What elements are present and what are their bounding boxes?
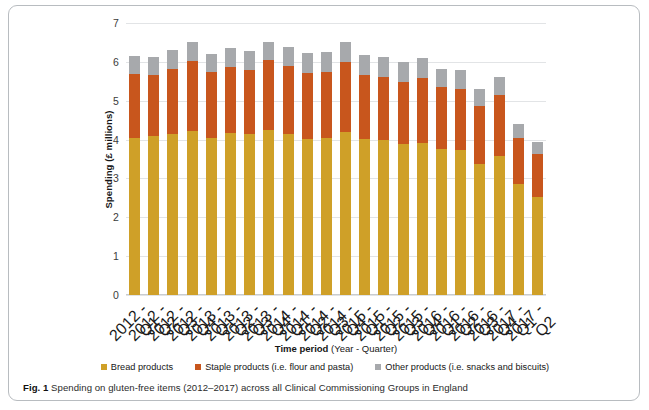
bar-segment-other [148,57,159,75]
bar-segment-bread [148,136,159,295]
y-axis-tick-label: 1 [113,250,119,262]
bar-segment-bread [244,134,255,295]
bar-column[interactable] [206,23,217,295]
bar-column[interactable] [398,23,409,295]
figure-frame: Spending (£ millions) 01234567 2012 - Q1… [8,5,640,401]
bar-segment-other [532,142,543,154]
bar-segment-staple [436,87,447,149]
bar-column[interactable] [225,23,236,295]
bar-column[interactable] [187,23,198,295]
bar-segment-staple [283,66,294,134]
y-axis-title-bold: Spending [103,164,114,208]
chart-legend: Bread productsStaple products (i.e. flou… [9,362,641,372]
bar-column[interactable] [359,23,370,295]
bar-segment-staple [398,82,409,144]
bar-segment-bread [417,143,428,295]
bar-segment-other [359,55,370,75]
bar-segment-staple [225,67,236,133]
bar-column[interactable] [129,23,140,295]
bar-segment-other [398,62,409,82]
bar-segment-bread [340,132,351,295]
bar-segment-staple [474,106,485,164]
bar-segment-other [455,70,466,89]
bar-segment-other [417,58,428,78]
bar-segment-bread [321,138,332,295]
x-axis-tick-labels: 2012 - Q12012 - Q22012 - Q32012 - Q42013… [126,297,546,341]
bar-column[interactable] [167,23,178,295]
bar-segment-bread [378,140,389,295]
legend-swatch-icon [101,364,107,370]
bar-segment-bread [474,164,485,295]
plot-area: 01234567 [126,23,546,295]
bar-segment-bread [494,156,505,295]
bar-segment-staple [263,60,274,130]
bar-segment-bread [302,139,313,295]
bar-column[interactable] [532,23,543,295]
bar-segment-bread [187,131,198,295]
bar-segment-other [225,48,236,66]
legend-swatch-icon [375,364,381,370]
bar-column[interactable] [302,23,313,295]
gridline [126,295,546,296]
bar-segment-staple [513,138,524,184]
y-axis-title-rest: (£ millions) [103,110,114,164]
legend-item[interactable]: Staple products (i.e. flour and pasta) [195,362,353,372]
bar-segment-other [474,89,485,106]
y-axis-tick-label: 3 [113,172,119,184]
chart-area: Spending (£ millions) 01234567 2012 - Q1… [9,6,641,378]
bar-segment-other [283,47,294,66]
y-axis-tick-label: 0 [113,289,119,301]
bar-segment-staple [340,62,351,132]
bar-segment-other [244,51,255,70]
bar-segment-bread [455,150,466,295]
bar-segment-staple [417,78,428,143]
bar-segment-staple [455,89,466,150]
bar-segment-bread [513,184,524,295]
bar-segment-other [436,69,447,88]
bar-segment-bread [225,133,236,295]
bar-column[interactable] [321,23,332,295]
bar-segment-other [187,42,198,61]
bar-segment-other [263,42,274,60]
bar-column[interactable] [378,23,389,295]
bar-column[interactable] [263,23,274,295]
legend-label: Staple products (i.e. flour and pasta) [205,362,353,372]
bar-segment-other [302,53,313,72]
bar-column[interactable] [455,23,466,295]
bar-column[interactable] [340,23,351,295]
bar-segment-other [513,124,524,139]
y-axis-tick-label: 6 [113,56,119,68]
bar-segment-staple [532,154,543,198]
bar-segment-other [167,50,178,69]
bar-segment-other [494,77,505,95]
bar-segment-bread [263,130,274,295]
bar-segment-staple [378,77,389,139]
bar-column[interactable] [513,23,524,295]
bar-segment-staple [302,73,313,139]
bar-segment-bread [206,138,217,295]
bar-segment-staple [148,75,159,135]
figure-caption: Fig. 1 Spending on gluten-free items (20… [23,382,629,393]
y-axis-tick-label: 4 [113,134,119,146]
legend-label: Other products (i.e. snacks and biscuits… [385,362,549,372]
bar-column[interactable] [283,23,294,295]
legend-item[interactable]: Other products (i.e. snacks and biscuits… [375,362,549,372]
bar-column[interactable] [148,23,159,295]
bar-segment-bread [359,139,370,295]
bar-column[interactable] [474,23,485,295]
bar-segment-other [340,42,351,61]
x-axis-title-rest: (Year - Quarter) [328,343,397,354]
legend-label: Bread products [111,362,173,372]
x-axis-title-bold: Time period [275,343,329,354]
legend-item[interactable]: Bread products [101,362,173,372]
bar-segment-staple [359,75,370,138]
bar-segment-other [378,57,389,78]
bar-series-container [126,23,546,295]
bar-column[interactable] [494,23,505,295]
bar-segment-staple [244,70,255,134]
bar-column[interactable] [417,23,428,295]
bar-segment-staple [321,72,332,137]
bar-column[interactable] [436,23,447,295]
x-axis-title: Time period (Year - Quarter) [126,343,546,354]
bar-column[interactable] [244,23,255,295]
